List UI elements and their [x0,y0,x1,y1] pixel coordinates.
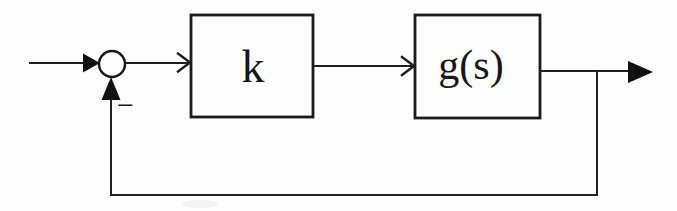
plant-block-label: g(s) [438,42,503,89]
output-arrowhead-icon [628,61,653,83]
gain-block-label: k [242,41,265,92]
minus-sign-label: − [117,88,134,121]
block-diagram: − k g(s) [0,0,677,211]
scan-smudge-artifact [182,200,218,208]
summing-junction [99,51,125,77]
block-diagram-canvas: − k g(s) [0,0,677,211]
input-arrowhead-icon [83,54,100,73]
